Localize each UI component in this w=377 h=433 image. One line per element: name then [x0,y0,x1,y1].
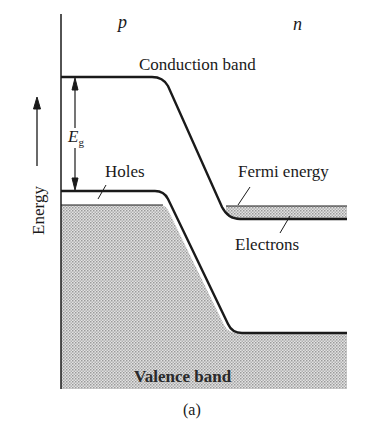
electrons-label: Electrons [235,236,299,253]
band-gap-symbol: E [68,127,78,146]
valence-band-fill [61,205,347,389]
energy-axis-arrow-icon [34,97,41,166]
fermi-energy-label: Fermi energy [238,163,329,180]
electrons-fill [226,206,347,219]
valence-band-label: Valence band [134,368,231,385]
n-region-label: n [293,15,302,33]
band-gap-subscript: g [78,136,84,148]
band-diagram-figure: p n Conduction band Eg Holes Fermi energ… [0,0,377,433]
band-gap-label: Eg [66,128,86,148]
figure-caption: (a) [183,402,201,418]
conduction-band-label: Conduction band [139,56,256,73]
energy-axis-label: Energy [30,181,47,241]
holes-label: Holes [105,163,145,180]
conduction-band-edge [61,77,347,219]
fermi-energy-pointer [238,187,250,205]
p-region-label: p [118,13,127,31]
